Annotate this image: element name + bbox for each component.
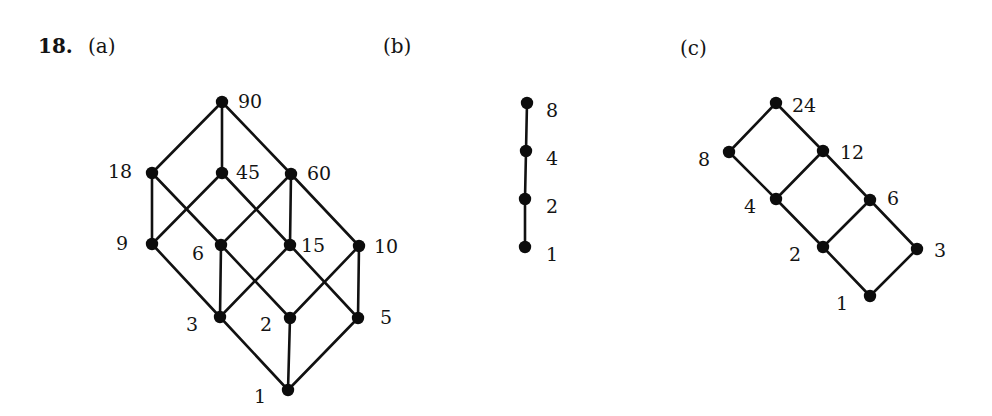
edge-6-3 [220, 245, 221, 317]
node-24 [770, 97, 782, 109]
node-label-6: 6 [192, 242, 204, 264]
edge-5-1 [288, 318, 358, 390]
node-6 [864, 194, 876, 206]
node-label-8: 8 [546, 99, 558, 121]
node-8 [723, 146, 735, 158]
node-4 [520, 145, 532, 157]
node-5 [352, 312, 364, 324]
node-label-9: 9 [116, 232, 128, 254]
node-label-12: 12 [840, 141, 864, 163]
node-1 [282, 384, 294, 396]
edge-10-5 [358, 246, 359, 318]
edge-4-2 [776, 199, 823, 247]
diagram-c-nodes: 2481246231 [698, 94, 946, 314]
node-label-1: 1 [836, 292, 848, 314]
hasse-diagram-b: (b) 8421 [383, 34, 558, 265]
node-label-2: 2 [546, 195, 558, 217]
node-3 [214, 311, 226, 323]
diagram-a-nodes: 901845609615103251 [108, 90, 398, 407]
node-1 [864, 290, 876, 302]
node-label-8: 8 [698, 148, 710, 170]
node-8 [521, 97, 533, 109]
hasse-diagram-figure: 18. (a) 901845609615103251 (b) 8421 (c) … [0, 0, 992, 416]
edge-8-4 [729, 152, 776, 199]
node-label-60: 60 [307, 162, 331, 184]
edge-12-4 [776, 151, 823, 199]
node-90 [216, 96, 228, 108]
hasse-diagram-a: (a) 901845609615103251 [88, 34, 398, 407]
node-label-24: 24 [792, 94, 816, 116]
hasse-diagram-c: (c) 2481246231 [680, 36, 946, 314]
node-label-90: 90 [238, 90, 262, 112]
node-label-3: 3 [186, 313, 198, 335]
diagram-c-label: (c) [680, 36, 707, 60]
node-label-3: 3 [934, 239, 946, 261]
node-label-4: 4 [744, 195, 756, 217]
node-label-1: 1 [254, 385, 266, 407]
edge-4-2 [525, 151, 526, 199]
node-label-5: 5 [380, 306, 392, 328]
problem-number: 18. [38, 34, 73, 58]
edge-3-1 [870, 249, 917, 296]
diagram-b-label: (b) [383, 34, 411, 58]
edge-9-3 [152, 244, 220, 317]
node-3 [911, 243, 923, 255]
diagram-b-edges [525, 103, 527, 247]
node-1 [519, 241, 531, 253]
node-15 [284, 239, 296, 251]
node-10 [353, 240, 365, 252]
edge-2-1 [288, 318, 290, 390]
node-60 [285, 168, 297, 180]
node-label-6: 6 [887, 187, 899, 209]
node-label-18: 18 [108, 160, 132, 182]
node-45 [216, 167, 228, 179]
node-2 [284, 312, 296, 324]
node-6 [215, 239, 227, 251]
node-2 [817, 241, 829, 253]
node-label-2: 2 [260, 313, 272, 335]
edge-90-18 [152, 102, 222, 173]
node-9 [146, 238, 158, 250]
node-label-45: 45 [236, 161, 260, 183]
edge-24-8 [729, 103, 776, 152]
node-12 [817, 145, 829, 157]
node-label-10: 10 [374, 235, 398, 257]
edge-3-1 [220, 317, 288, 390]
node-label-1: 1 [546, 243, 558, 265]
diagram-a-label: (a) [88, 34, 116, 58]
edge-60-15 [290, 174, 291, 245]
edge-2-1 [823, 247, 870, 296]
node-label-2: 2 [789, 243, 801, 265]
edge-8-4 [526, 103, 527, 151]
node-18 [146, 167, 158, 179]
node-label-4: 4 [546, 147, 558, 169]
node-2 [519, 193, 531, 205]
node-label-15: 15 [301, 234, 325, 256]
edge-6-2 [823, 200, 870, 247]
diagram-a-edges [152, 102, 359, 390]
node-4 [770, 193, 782, 205]
